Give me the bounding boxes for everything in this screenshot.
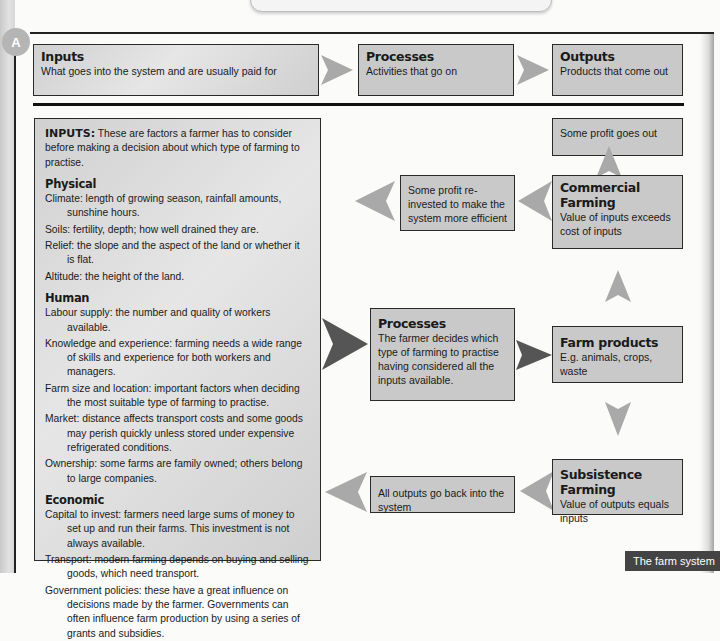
inputs-lead: INPUTS: These are factors a farmer has t… [45, 127, 310, 170]
outputs-box: Outputs Products that come out [552, 44, 683, 96]
profit-out-text: Some profit goes out [560, 126, 675, 140]
processes-detail-title: Processes [378, 316, 507, 331]
profit-reinvested-text: Some profit re-invested to make the syst… [408, 183, 507, 225]
arrow-up-icon [596, 146, 622, 178]
arrow-left-icon [520, 471, 554, 511]
section-divider [33, 103, 684, 106]
farm-products-box: Farm products E.g. animals, crops, waste [552, 326, 683, 383]
list-item: Transport: modern farming depends on buy… [45, 553, 310, 582]
list-item: Relief: the slope and the aspect of the … [45, 239, 310, 268]
arrow-right-icon [517, 55, 549, 85]
inputs-box: Inputs What goes into the system and are… [33, 44, 319, 96]
processes-summary-box: Processes Activities that go on [358, 44, 514, 96]
commercial-farming-text: Value of inputs exceeds cost of inputs [560, 210, 675, 238]
outputs-title: Outputs [560, 49, 675, 64]
commercial-farming-title: Commercial Farming [560, 180, 675, 210]
list-item: Market: distance affects transport costs… [45, 412, 310, 455]
frame-left-border [14, 33, 16, 573]
frame-top-border [30, 32, 714, 34]
arrow-right-icon [321, 55, 353, 85]
figure-badge: A [2, 28, 30, 56]
outputs-back-text: All outputs go back into the system [378, 486, 507, 514]
subsistence-farming-title: Subsistence Farming [560, 467, 675, 497]
farm-products-title: Farm products [560, 335, 675, 350]
left-margin-strip [0, 0, 15, 573]
farm-products-text: E.g. animals, crops, waste [560, 350, 675, 378]
section-heading-economic: Economic [45, 493, 310, 507]
profit-reinvested-box: Some profit re-invested to make the syst… [400, 175, 515, 231]
inputs-text: What goes into the system and are usuall… [41, 64, 311, 78]
arrow-left-icon [518, 181, 552, 221]
inputs-detail-panel: INPUTS: These are factors a farmer has t… [34, 118, 321, 561]
section-heading-physical: Physical [45, 177, 310, 191]
list-item: Government policies: these have a great … [45, 584, 310, 641]
list-item: Labour supply: the number and quality of… [45, 306, 310, 335]
list-item: Capital to invest: farmers need large su… [45, 508, 310, 551]
inputs-lead-bold: INPUTS: [45, 127, 95, 140]
list-item: Ownership: some farms are family owned; … [45, 457, 310, 486]
processes-detail-box: Processes The farmer decides which type … [370, 308, 515, 401]
arrow-down-icon [605, 402, 631, 436]
figure-caption: The farm system [625, 551, 720, 571]
subsistence-farming-box: Subsistence Farming Value of outputs equ… [552, 459, 683, 515]
arrow-up-icon [605, 270, 631, 302]
list-item: Knowledge and experience: farming needs … [45, 337, 310, 380]
outputs-back-box: All outputs go back into the system [370, 476, 515, 513]
top-tab-decoration [250, 0, 552, 12]
arrow-right-dark-icon [322, 318, 368, 370]
inputs-title: Inputs [41, 49, 311, 64]
arrow-left-icon [325, 472, 367, 512]
list-item: Altitude: the height of the land. [45, 270, 310, 284]
section-heading-human: Human [45, 291, 310, 305]
processes-summary-title: Processes [366, 49, 506, 64]
processes-detail-text: The farmer decides which type of farming… [378, 331, 507, 387]
arrow-right-dark-icon [516, 340, 552, 370]
subsistence-farming-text: Value of outputs equals inputs [560, 497, 675, 525]
commercial-farming-box: Commercial Farming Value of inputs excee… [552, 175, 683, 249]
arrow-left-icon [355, 181, 395, 221]
list-item: Soils: fertility, depth; how well draine… [45, 223, 310, 237]
list-item: Farm size and location: important factor… [45, 382, 310, 411]
list-item: Climate: length of growing season, rainf… [45, 192, 310, 221]
page-edge-shadow [700, 33, 714, 573]
outputs-text: Products that come out [560, 64, 675, 78]
processes-summary-text: Activities that go on [366, 64, 506, 78]
